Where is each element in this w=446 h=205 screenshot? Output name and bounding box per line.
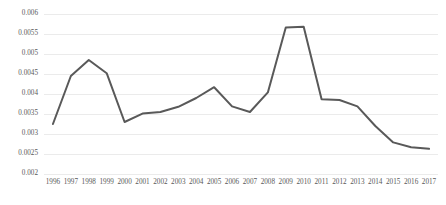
y-tick-label: 0.005 [22, 50, 38, 57]
x-tick-label: 2016 [402, 179, 420, 195]
y-tick-label: 0.0025 [18, 150, 38, 157]
x-tick-label: 2010 [295, 179, 313, 195]
plot-area [44, 14, 438, 174]
x-tick-label: 2007 [241, 179, 259, 195]
y-tick-label: 0.0035 [18, 110, 38, 117]
x-axis: 1996199719981999200020012002200320042005… [44, 179, 438, 195]
series-1-line [53, 27, 429, 149]
gridline [44, 174, 438, 175]
y-axis: 0.0020.00250.0030.00350.0040.00450.0050.… [0, 0, 42, 205]
x-tick-label: 2008 [259, 179, 277, 195]
x-tick-label: 2017 [420, 179, 438, 195]
data-series-line [44, 14, 438, 174]
y-tick-label: 0.002 [22, 170, 38, 177]
x-tick-label: 2015 [384, 179, 402, 195]
x-tick-label: 1996 [44, 179, 62, 195]
x-tick-label: 1999 [98, 179, 116, 195]
x-tick-label: 1997 [62, 179, 80, 195]
x-tick-label: 2002 [151, 179, 169, 195]
x-tick-label: 2012 [331, 179, 349, 195]
y-tick-label: 0.0045 [18, 70, 38, 77]
x-tick-label: 1998 [80, 179, 98, 195]
x-tick-label: 2001 [134, 179, 152, 195]
x-tick-label: 2014 [366, 179, 384, 195]
x-tick-label: 2009 [277, 179, 295, 195]
line-chart: 0.0020.00250.0030.00350.0040.00450.0050.… [0, 0, 446, 205]
y-tick-label: 0.006 [22, 10, 38, 17]
x-tick-label: 2013 [348, 179, 366, 195]
x-tick-label: 2005 [205, 179, 223, 195]
x-tick-label: 2006 [223, 179, 241, 195]
y-tick-label: 0.0055 [18, 30, 38, 37]
y-tick-label: 0.003 [22, 130, 38, 137]
x-tick-label: 2011 [313, 179, 331, 195]
y-tick-label: 0.004 [22, 90, 38, 97]
x-tick-label: 2004 [187, 179, 205, 195]
x-tick-label: 2000 [116, 179, 134, 195]
x-tick-label: 2003 [169, 179, 187, 195]
